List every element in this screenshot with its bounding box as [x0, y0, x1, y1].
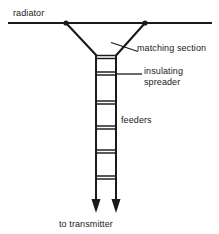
leader-line-matching-section: [111, 43, 138, 52]
matching-section-left-leg: [66, 23, 97, 56]
arrow-down-icon: [92, 199, 101, 213]
label-to-transmitter: to transmitter: [59, 219, 113, 230]
diagram-canvas: [0, 0, 219, 234]
label-insulating-line1: insulating: [144, 66, 183, 77]
label-insulating-line2: spreader: [144, 77, 183, 88]
label-radiator: radiator: [13, 8, 44, 19]
arrow-down-icon: [112, 199, 121, 213]
label-insulating-spreader: insulating spreader: [144, 66, 183, 88]
antenna-feeder-diagram: radiator matching section insulating spr…: [0, 0, 219, 234]
label-feeders: feeders: [121, 115, 152, 126]
label-matching-section: matching section: [137, 43, 206, 54]
